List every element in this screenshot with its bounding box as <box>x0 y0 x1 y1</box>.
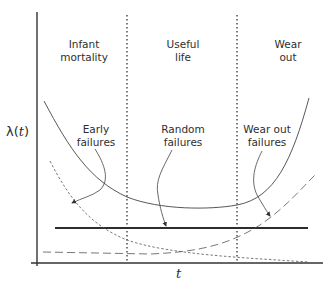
x-axis-label: t <box>176 266 181 281</box>
annotation-early-failures: Early failures <box>77 123 116 149</box>
region-label-line: Infant <box>60 38 108 51</box>
annotation-line: failures <box>161 136 204 149</box>
region-label-useful-life: Useful life <box>167 38 200 64</box>
region-label-line: Wear <box>275 38 302 51</box>
y-axis-symbol: λ( <box>6 124 19 139</box>
wearout-failures-curve <box>43 175 315 254</box>
region-label-line: out <box>275 51 302 64</box>
region-label-line: Useful <box>167 38 200 51</box>
annotation-line: Random <box>161 123 204 136</box>
region-label-line: life <box>167 51 200 64</box>
annotation-random-failures: Random failures <box>161 123 204 149</box>
bathtub-curve <box>44 98 309 208</box>
annotation-line: Early <box>77 123 116 136</box>
region-label-infant-mortality: Infant mortality <box>60 38 108 64</box>
wearout-failures-arrow <box>254 151 270 216</box>
y-axis-label: λ(t) <box>6 124 29 139</box>
y-axis-close: ) <box>24 124 29 139</box>
early-failures-arrow <box>72 149 105 203</box>
x-axis-variable: t <box>176 266 181 281</box>
annotation-wearout-failures: Wear out failures <box>243 123 291 149</box>
early-failures-curve <box>50 161 308 262</box>
region-label-line: mortality <box>60 51 108 64</box>
annotation-line: failures <box>243 136 291 149</box>
annotation-line: Wear out <box>243 123 291 136</box>
random-failures-arrow <box>157 150 172 226</box>
region-label-wear-out: Wear out <box>275 38 302 64</box>
annotation-line: failures <box>77 136 116 149</box>
